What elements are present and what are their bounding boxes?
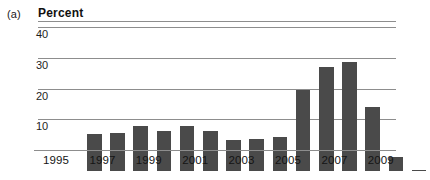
x-tick-label-1999: 1999 bbox=[129, 154, 169, 166]
x-tick-label-1995: 1995 bbox=[36, 154, 76, 166]
x-tick-label-2007: 2007 bbox=[314, 154, 354, 166]
bar-slot bbox=[295, 42, 311, 171]
x-tick-label-2003: 2003 bbox=[222, 154, 262, 166]
panel-label: (a) bbox=[7, 8, 21, 20]
bar-slot bbox=[341, 42, 357, 171]
y-tick-label-10: 10 bbox=[36, 120, 66, 132]
bars-group bbox=[86, 42, 430, 171]
bar-slot bbox=[411, 42, 427, 171]
bar-slot bbox=[248, 42, 264, 171]
x-axis-line bbox=[34, 150, 396, 151]
x-tick-label-2009: 2009 bbox=[361, 154, 401, 166]
bar-slot bbox=[132, 42, 148, 171]
bar-slot bbox=[318, 42, 334, 171]
bar-slot bbox=[272, 42, 288, 171]
y-tick-label-20: 20 bbox=[36, 90, 66, 102]
bar-slot bbox=[364, 42, 380, 171]
bar-slot bbox=[109, 42, 125, 171]
gridline-40 bbox=[38, 27, 396, 28]
bar-slot bbox=[156, 42, 172, 171]
bar-slot bbox=[86, 42, 102, 171]
bar-slot bbox=[225, 42, 241, 171]
y-tick-label-30: 30 bbox=[36, 59, 66, 71]
x-tick-label-2001: 2001 bbox=[175, 154, 215, 166]
y-tick-label-40: 40 bbox=[36, 28, 66, 40]
bar-slot bbox=[388, 42, 404, 171]
plot-area bbox=[38, 21, 396, 150]
axis-title: Percent bbox=[38, 6, 83, 20]
bar bbox=[412, 170, 427, 171]
x-tick-label-2005: 2005 bbox=[268, 154, 308, 166]
gridline-top bbox=[38, 21, 396, 22]
bar-slot bbox=[179, 42, 195, 171]
x-tick-label-1997: 1997 bbox=[82, 154, 122, 166]
bar-slot bbox=[202, 42, 218, 171]
